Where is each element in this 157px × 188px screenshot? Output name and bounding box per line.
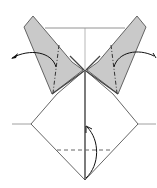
origami-diagram xyxy=(0,0,157,188)
